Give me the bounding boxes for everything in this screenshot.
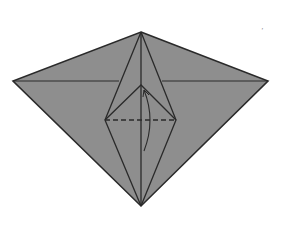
origami-diagram — [0, 0, 290, 227]
